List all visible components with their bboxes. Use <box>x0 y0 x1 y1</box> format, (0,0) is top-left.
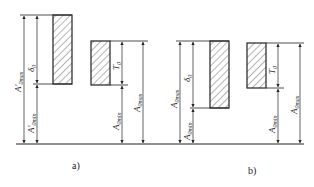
caption-a: a) <box>72 160 80 172</box>
hatched-block-outer <box>53 15 72 84</box>
panel-a: A'0max δ0 A'0min T0 A0min A0max a) <box>13 15 148 172</box>
label-inner-tol: T0 <box>267 66 278 74</box>
panel-b: A0max δ0 A0min T0 A0min A0max b) <box>169 41 304 177</box>
hatched-block-inner <box>91 41 110 85</box>
label-outer-min: A0min <box>182 123 193 142</box>
tolerance-diagram: A'0max δ0 A'0min T0 A0min A0max a) A0max… <box>0 0 314 187</box>
hatched-block-outer <box>210 41 229 108</box>
label-inner-max: A0max <box>289 95 300 115</box>
hatched-block-inner <box>247 43 266 88</box>
label-inner-max: A0max <box>132 93 143 113</box>
label-inner-min: A0min <box>267 116 278 135</box>
label-inner-tol: T0 <box>111 62 122 70</box>
caption-b: b) <box>248 165 256 177</box>
label-outer-total: A0max <box>169 89 180 109</box>
label-inner-min: A0min <box>111 113 122 132</box>
label-outer-min: A'0min <box>26 114 37 134</box>
label-outer-tol: δ0 <box>182 75 193 82</box>
label-outer-total: A'0max <box>13 71 24 93</box>
label-outer-tol: δ0 <box>26 65 37 72</box>
